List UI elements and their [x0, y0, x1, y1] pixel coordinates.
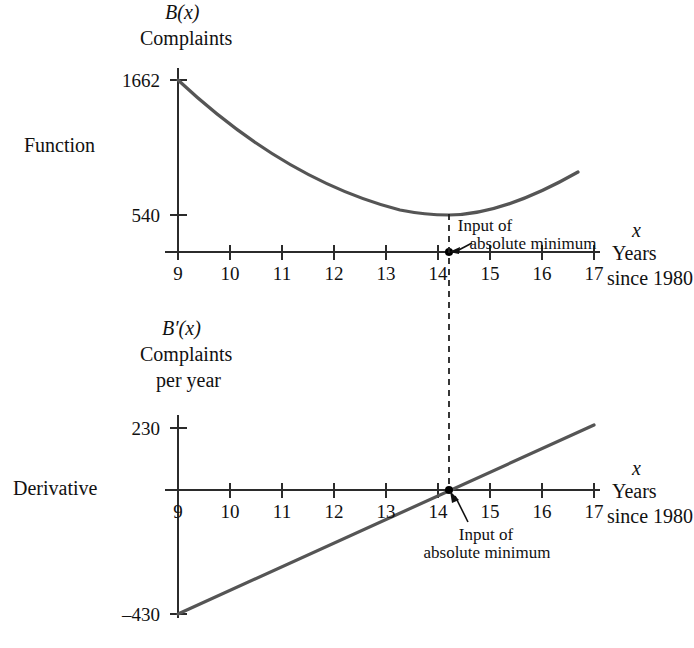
derivative-xtick-label-12: 12 [314, 502, 354, 521]
function-xtick-label-13: 13 [366, 264, 406, 283]
derivative-ytick-label-230: 230 [100, 419, 160, 438]
function-curve [178, 80, 578, 215]
derivative-annotation-line2: absolute minimum [398, 543, 576, 562]
derivative-y-axis-unit-line2: per year [156, 370, 221, 390]
derivative-xtick-label-16: 16 [522, 502, 562, 521]
derivative-annotation-line1: Input of [438, 525, 534, 544]
derivative-xtick-label-9: 9 [158, 502, 198, 521]
figure-container: B(x) Complaints Function 1662 540 9 10 1… [0, 0, 694, 648]
derivative-y-axis-unit-line1: Complaints [140, 344, 232, 364]
derivative-xtick-label-15: 15 [470, 502, 510, 521]
derivative-x-axis-unit-line1: Years [612, 481, 657, 501]
derivative-xtick-label-13: 13 [366, 502, 406, 521]
function-xtick-label-15: 15 [470, 264, 510, 283]
function-panel-graphics [165, 68, 600, 260]
derivative-xtick-label-11: 11 [262, 502, 302, 521]
function-xtick-label-11: 11 [262, 264, 302, 283]
function-ytick-label-540: 540 [98, 206, 160, 225]
function-ytick-label-1662: 1662 [98, 71, 160, 90]
function-annotation-line2: absolute minimum [443, 234, 623, 253]
function-xtick-label-14: 14 [418, 264, 458, 283]
function-y-axis-unit: Complaints [140, 28, 232, 48]
function-xtick-label-10: 10 [210, 264, 250, 283]
derivative-x-axis-unit-line2: since 1980 [607, 506, 693, 526]
graph-canvas [0, 0, 694, 648]
function-xtick-label-12: 12 [314, 264, 354, 283]
function-x-axis-unit-line2: since 1980 [607, 268, 693, 288]
function-x-axis-unit-line1: Years [612, 243, 657, 263]
function-xtick-label-16: 16 [522, 264, 562, 283]
derivative-x-axis-variable: x [632, 458, 641, 478]
function-x-axis-variable: x [632, 220, 641, 240]
function-xtick-label-9: 9 [158, 264, 198, 283]
derivative-y-axis-variable: B′(x) [162, 318, 201, 338]
derivative-xtick-label-14: 14 [418, 502, 458, 521]
derivative-panel-side-label: Derivative [13, 478, 97, 498]
function-annotation-line1: Input of [455, 216, 515, 235]
derivative-ytick-label-minus430: –430 [88, 605, 160, 624]
derivative-xtick-label-10: 10 [210, 502, 250, 521]
function-panel-side-label: Function [24, 135, 95, 155]
function-y-axis-variable: B(x) [165, 2, 199, 22]
